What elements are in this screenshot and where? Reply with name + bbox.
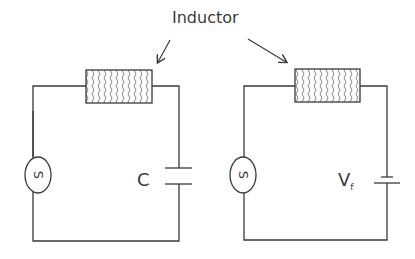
circuit-diagram: S S bbox=[0, 0, 415, 259]
arrow-right bbox=[248, 39, 286, 62]
capacitor-label: C bbox=[137, 169, 150, 190]
arrow-left bbox=[158, 40, 170, 62]
source-label-left: S bbox=[31, 171, 46, 179]
inductor-icon bbox=[295, 69, 360, 102]
inductor-label: Inductor bbox=[172, 8, 239, 27]
inductor-icon bbox=[86, 70, 152, 103]
right-circuit bbox=[230, 69, 400, 240]
source-label-right: S bbox=[236, 171, 251, 179]
battery-label-main: V bbox=[338, 169, 350, 190]
battery-label-sub: f bbox=[350, 182, 353, 192]
left-circuit bbox=[25, 70, 192, 241]
battery-label: Vf bbox=[338, 169, 354, 192]
